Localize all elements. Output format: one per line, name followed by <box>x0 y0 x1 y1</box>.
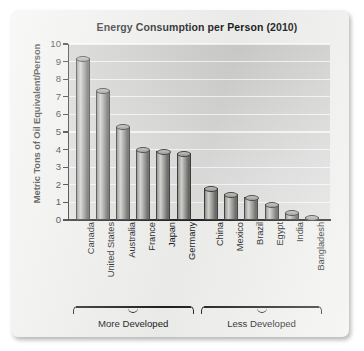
bar-top-ellipse <box>116 124 130 130</box>
category-label: Japan <box>167 222 177 247</box>
y-tick-mark <box>63 114 68 115</box>
bar <box>204 188 218 220</box>
bar <box>285 213 299 220</box>
y-tick-label: 8 <box>45 74 61 84</box>
bar <box>177 153 191 220</box>
bar-chart: Energy Consumption per Person (2010) Met… <box>11 10 349 337</box>
group-label-more-developed: More Developed <box>73 318 194 329</box>
y-tick-label: 0 <box>45 215 61 225</box>
bracket-left-end <box>73 306 78 314</box>
y-tick-label: 6 <box>45 109 61 119</box>
category-label: United States <box>106 222 116 277</box>
bar-top-ellipse <box>265 202 279 208</box>
bar <box>305 217 319 220</box>
category-label: Brazil <box>255 222 265 245</box>
bracket-more-developed <box>73 306 194 315</box>
scanned-page: Energy Consumption per Person (2010) Met… <box>0 0 364 351</box>
y-tick-mark <box>63 96 68 97</box>
y-tick-label: 5 <box>45 127 61 137</box>
bar <box>96 91 110 220</box>
bar <box>136 150 150 220</box>
y-tick-mark <box>63 167 68 168</box>
y-axis-tick-labels: 012345678910 <box>39 44 61 220</box>
category-label: Mexico <box>235 222 245 251</box>
y-tick-mark <box>63 184 68 185</box>
y-tick-mark <box>63 219 68 220</box>
category-label: France <box>147 222 157 251</box>
y-tick-label: 9 <box>45 57 61 67</box>
x-axis-category-labels: CanadaUnited StatesAustraliaFranceJapanG… <box>68 222 329 308</box>
bar <box>156 151 170 220</box>
bar-top-ellipse <box>204 186 218 192</box>
chart-card: Energy Consumption per Person (2010) Met… <box>11 10 349 337</box>
y-tick-mark <box>63 61 68 62</box>
category-label: China <box>215 222 225 246</box>
bar <box>224 194 238 220</box>
y-tick-label: 1 <box>45 197 61 207</box>
bar-top-ellipse <box>76 56 90 62</box>
bar <box>265 204 279 220</box>
y-tick-mark <box>63 149 68 150</box>
bar-top-ellipse <box>285 210 299 216</box>
y-tick-mark <box>63 131 68 132</box>
category-label: India <box>295 222 305 242</box>
bar <box>244 197 258 220</box>
bracket-right-end <box>189 306 194 314</box>
bracket-middle-notch <box>257 306 267 313</box>
y-tick-label: 10 <box>45 39 61 49</box>
category-label: Australia <box>127 222 137 258</box>
category-label: Germany <box>187 222 197 260</box>
group-label-less-developed: Less Developed <box>201 318 322 329</box>
y-tick-mark <box>63 202 68 203</box>
bar-top-ellipse <box>305 215 319 221</box>
bracket-less-developed <box>201 306 322 315</box>
bar-series <box>68 44 329 220</box>
y-tick-label: 7 <box>45 92 61 102</box>
bar <box>76 58 90 220</box>
y-tick-label: 4 <box>45 145 61 155</box>
bar-top-ellipse <box>177 151 191 157</box>
bar-top-ellipse <box>96 88 110 94</box>
y-tick-label: 3 <box>45 162 61 172</box>
category-label: Bangladesh <box>316 222 326 271</box>
bar-top-ellipse <box>157 149 171 155</box>
bar <box>116 127 130 220</box>
bar-top-ellipse <box>245 195 259 201</box>
bracket-left-end <box>201 306 206 314</box>
bar-top-ellipse <box>224 192 238 198</box>
bar-top-ellipse <box>136 147 150 153</box>
y-tick-mark <box>63 43 68 44</box>
chart-title: Energy Consumption per Person (2010) <box>49 21 345 33</box>
bracket-right-end <box>317 306 322 314</box>
category-label: Canada <box>86 222 96 254</box>
y-tick-label: 2 <box>45 180 61 190</box>
y-tick-mark <box>63 79 68 80</box>
category-label: Egypt <box>275 222 285 246</box>
bracket-middle-notch <box>128 306 138 313</box>
